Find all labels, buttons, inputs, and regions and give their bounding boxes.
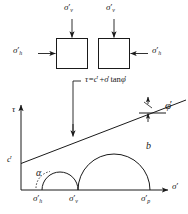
sigma-v-label-right: σ′v: [106, 3, 115, 12]
sigma-h-tick-label: σ′h: [33, 194, 42, 203]
soil-element-box-left: [57, 39, 88, 69]
sigma-h-label-right: σ′h: [152, 46, 161, 55]
sigma-h-label-left: σ′h: [13, 46, 22, 55]
failure-envelope-line: [21, 100, 186, 164]
figure-root: σ′v σ′v σ′h σ′h τ =c′+σ′tanφ′ τ σ′ c′ α …: [0, 0, 188, 214]
tau-axis-label: τ: [12, 105, 15, 114]
alpha-angle-label: α: [36, 168, 41, 178]
figure-canvas: [0, 0, 188, 214]
sigma-axis-label: σ′: [172, 182, 178, 191]
large-circle-label: b: [146, 141, 151, 151]
sigma-v-tick-label: σ′v: [69, 194, 78, 203]
mohr-circle-small-a: [42, 172, 78, 190]
phi-angle-label: φ′: [165, 100, 174, 111]
failure-envelope-equation: τ =c′+σ′tanφ′: [85, 75, 128, 84]
cohesion-label: c′: [7, 155, 13, 164]
sigma-v-label-left: σ′v: [64, 3, 73, 12]
soil-element-box-right: [99, 39, 130, 69]
sigma-p-tick-label: σ′p: [141, 194, 150, 203]
mohr-circle-large-b: [78, 154, 150, 190]
equation-leader-line: [73, 81, 81, 131]
